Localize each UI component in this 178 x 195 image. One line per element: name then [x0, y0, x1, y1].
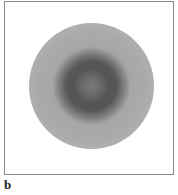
panel-label: b: [4, 178, 11, 192]
concentric-ring-disc: [29, 23, 154, 149]
